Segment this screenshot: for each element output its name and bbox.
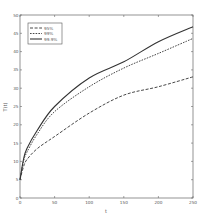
x-tick-label: 150 bbox=[120, 200, 128, 205]
y-tick-label: 35 bbox=[13, 67, 19, 72]
y-tick-label: 50 bbox=[13, 13, 19, 18]
y-tick-label: 20 bbox=[13, 122, 19, 127]
series-lines bbox=[20, 27, 193, 180]
y-tick-label: 10 bbox=[13, 159, 19, 164]
x-tick-label: 100 bbox=[85, 200, 93, 205]
y-tick-label: 5 bbox=[16, 177, 19, 182]
line-chart: 05010015020025005101520253035404550 95%9… bbox=[0, 0, 206, 217]
legend: 95%99%99.9% bbox=[28, 23, 62, 44]
y-tick-label: 45 bbox=[13, 31, 19, 36]
x-tick-label: 0 bbox=[19, 200, 22, 205]
x-tick-label: 50 bbox=[52, 200, 58, 205]
series-line-95 bbox=[20, 77, 193, 180]
y-tick-label: 25 bbox=[13, 104, 19, 109]
y-tick-label: 0 bbox=[16, 196, 19, 201]
y-axis-label: T(t) bbox=[2, 102, 8, 112]
x-axis-label: t bbox=[105, 208, 107, 214]
y-tick-label: 15 bbox=[13, 141, 19, 146]
legend-label: 99% bbox=[44, 31, 53, 36]
legend-label: 95% bbox=[44, 26, 53, 31]
legend-label: 99.9% bbox=[44, 37, 57, 42]
x-tick-label: 200 bbox=[154, 200, 162, 205]
x-tick-label: 250 bbox=[189, 200, 197, 205]
series-line-99 bbox=[20, 38, 193, 179]
y-tick-label: 30 bbox=[13, 86, 19, 91]
series-line-999 bbox=[20, 27, 193, 180]
y-tick-label: 40 bbox=[13, 49, 19, 54]
